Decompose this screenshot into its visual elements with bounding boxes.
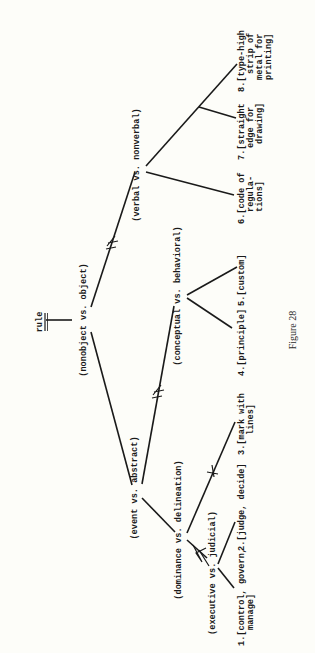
leaf-3-mark-with-lines: 3.[mark with lines] (237, 393, 256, 455)
node-nonobject-vs-object: (nonobject vs. object) (79, 263, 89, 376)
leaf-2-judge-decide: 2.[judge, decide] (237, 463, 247, 551)
root-label-rule: rule (35, 312, 48, 333)
leaf-5-custom: 5.[custom] (237, 254, 247, 306)
edge-branch-leaf7 (199, 107, 236, 118)
tree-diagram: rule (nonobject vs. object) (verbal vs. … (0, 0, 315, 653)
svg-text:tions]: tions] (255, 181, 265, 212)
edge-executive-leaf1 (218, 568, 234, 588)
edge-conceptual-leaf5 (187, 267, 237, 295)
leaf-1-control-govern-manage: 1.[control, govern, manage] (237, 548, 256, 646)
edge-conceptual-leaf4 (187, 298, 232, 328)
edge-event-dominance (142, 498, 175, 532)
node-verbal-vs-nonverbal: (verbal vs. nonverbal) (132, 108, 142, 221)
svg-text:2.[judge, decide]: 2.[judge, decide] (237, 463, 247, 551)
leaf-8-type-high-strip: 8.[type-high strip of metal for printing… (237, 30, 274, 92)
svg-text:manage]: manage] (246, 594, 256, 630)
edge-verbal-leaf6 (146, 172, 234, 195)
figure-28-diagram: rule (nonobject vs. object) (verbal vs. … (0, 0, 315, 653)
leaf-6-code-of-regulations: 6.[code of regula- tions] (237, 172, 265, 224)
svg-text:rule: rule (35, 312, 45, 333)
edge-nonobject-event (91, 332, 132, 485)
node-dominance-vs-delineation: (dominance vs. delineation) (174, 460, 184, 599)
edge-nonobject-verbal (91, 172, 135, 307)
leaf-4-principle: 4.[principle] (237, 309, 247, 376)
edge-executive-leaf2 (218, 522, 235, 564)
svg-text:drawing]: drawing] (255, 103, 265, 144)
node-event-vs-abstract: (event vs. abstract) (130, 436, 140, 539)
node-conceptual-vs-behavioral: (conceptual vs. behavioral) (173, 226, 183, 365)
figure-caption: Figure 28 (287, 311, 298, 350)
negation-mark-nonverbal (106, 236, 118, 249)
svg-text:4.[principle]: 4.[principle] (237, 309, 247, 376)
node-executive-vs-judicial: (executive vs. judicial) (208, 511, 218, 635)
svg-text:lines]: lines] (246, 404, 256, 435)
edge-event-conceptual (142, 306, 174, 484)
svg-text:5.[custom]: 5.[custom] (237, 254, 247, 306)
svg-text:printing]: printing] (264, 34, 274, 80)
leaf-7-straight-edge: 7.[straight edge for drawing] (237, 103, 265, 160)
